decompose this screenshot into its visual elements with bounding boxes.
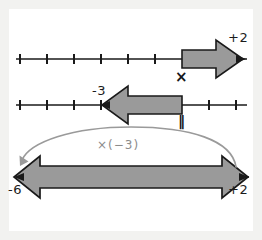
label-minus-six: -6 (8, 182, 22, 197)
label-plus-two-bottom: +2 (228, 182, 248, 197)
figure-canvas (0, 0, 262, 240)
row-operand-1 (16, 40, 247, 78)
row-result (14, 156, 249, 198)
arrow-minus-three-left (102, 86, 182, 124)
label-minus-three: -3 (92, 83, 106, 98)
arrow-result-double (14, 156, 248, 198)
axis-tip-1 (236, 55, 246, 63)
label-plus-two-top: +2 (228, 30, 248, 45)
number-line-multiplication-figure: +2 × -3 ‖ ×(−3) -6 +2 (0, 0, 262, 240)
operator-multiply: × (175, 68, 188, 86)
arrow-plus-two-right (182, 40, 243, 78)
label-times-minus-three: ×(−3) (97, 138, 139, 152)
operator-equals: ‖ (178, 113, 184, 129)
row-operand-2 (16, 86, 247, 124)
